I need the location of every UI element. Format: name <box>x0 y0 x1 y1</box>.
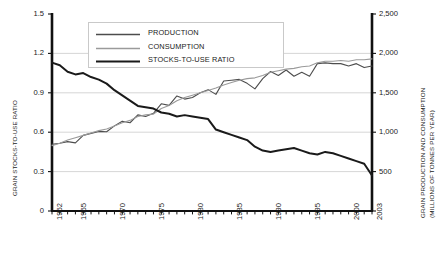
y-tick-label-right: 2,000 <box>379 48 413 57</box>
y-tick-label-left: 1.5 <box>18 9 44 18</box>
y-tick-label-right: 2,500 <box>379 9 413 18</box>
x-tick-label: 1975 <box>157 203 166 220</box>
legend-swatch <box>96 60 140 63</box>
x-tick-label: 2000 <box>352 203 361 220</box>
y-tick-label-left: 1.2 <box>18 48 44 57</box>
x-tick-label: 1990 <box>274 203 283 220</box>
x-tick-label: 1980 <box>196 203 205 220</box>
chart-legend: PRODUCTIONCONSUMPTIONSTOCKS-TO-USE RATIO <box>88 22 284 68</box>
legend-label: CONSUMPTION <box>148 42 205 51</box>
y-tick-label-left: 0.3 <box>18 167 44 176</box>
y-tick-label-left: 0 <box>18 206 44 215</box>
y-tick-label-right: 500 <box>379 167 413 176</box>
x-tick-label: 1985 <box>235 203 244 220</box>
y-tick-label-right: 1,000 <box>379 127 413 136</box>
legend-swatch <box>96 33 140 36</box>
y-tick-label-left: 0.9 <box>18 88 44 97</box>
series-line-stocks-to-use-ratio <box>52 63 372 176</box>
x-tick-label: 1965 <box>79 203 88 220</box>
legend-label: STOCKS-TO-USE RATIO <box>148 55 235 64</box>
x-tick-label: 1962 <box>55 203 64 220</box>
y-tick-label-right: 1,500 <box>379 88 413 97</box>
chart-container: GRAIN STOCKS-TO-USE RATIO GRAIN PRODUCTI… <box>0 0 446 266</box>
x-tick-label: 1970 <box>118 203 127 220</box>
y-tick-label-left: 0.6 <box>18 127 44 136</box>
legend-label: PRODUCTION <box>148 28 199 37</box>
x-tick-label: 1995 <box>313 203 322 220</box>
legend-swatch <box>96 47 140 50</box>
x-tick-label: 2003 <box>375 203 384 220</box>
